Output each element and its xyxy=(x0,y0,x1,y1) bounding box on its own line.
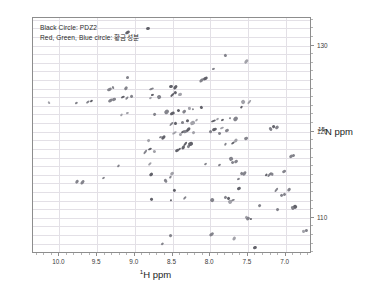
x-tick-minor xyxy=(126,253,127,255)
y-tick-minor xyxy=(311,88,313,89)
legend-line-black-circle: Black Circle: PDZ2 xyxy=(40,23,139,33)
hsqc-spectrum-figure: Black Circle: PDZ2 Red, Green, Blue circ… xyxy=(0,0,366,292)
y-tick-minor xyxy=(311,139,313,140)
spectrum-peak xyxy=(152,112,156,116)
x-tick-major xyxy=(134,253,135,256)
x-tick-minor xyxy=(194,253,195,255)
y-tick-minor xyxy=(311,225,313,226)
x-tick-label: 9.5 xyxy=(92,258,101,265)
spectrum-peak xyxy=(182,108,187,113)
spectrum-peak xyxy=(189,120,195,125)
x-tick-label: 8.0 xyxy=(205,258,214,265)
y-tick-minor xyxy=(311,53,313,54)
gridline-horizontal xyxy=(33,192,310,193)
x-tick-label: 10.0 xyxy=(52,258,64,265)
spectrum-peak xyxy=(112,97,116,101)
y-tick-minor xyxy=(311,79,313,80)
gridline-horizontal xyxy=(33,244,310,245)
spectrum-peak xyxy=(204,162,208,165)
spectrum-peak xyxy=(228,116,231,119)
spectrum-peak xyxy=(233,160,238,165)
spectrum-peak xyxy=(120,114,123,117)
spectrum-peak xyxy=(146,138,150,142)
gridline-horizontal xyxy=(33,183,310,184)
gridline-horizontal xyxy=(33,209,310,210)
y-tick-minor xyxy=(311,165,313,166)
spectrum-peak xyxy=(183,196,187,200)
gridline-vertical xyxy=(173,18,174,252)
spectrum-peak xyxy=(221,119,224,122)
x-tick-label: 8.5 xyxy=(167,258,176,265)
spectrum-peak xyxy=(125,96,129,101)
spectrum-peak xyxy=(223,54,227,58)
y-tick-minor xyxy=(311,148,313,149)
x-tick-major xyxy=(247,253,248,256)
x-tick-label: 9.0 xyxy=(129,258,138,265)
gridline-vertical xyxy=(97,18,98,252)
y-tick-minor xyxy=(311,243,313,244)
y-tick-minor xyxy=(311,62,313,63)
plot-area xyxy=(32,17,311,253)
x-tick-minor xyxy=(292,253,293,255)
gridline-vertical xyxy=(59,18,60,252)
x-tick-minor xyxy=(81,253,82,255)
legend-annotation: Black Circle: PDZ2 Red, Green, Blue circ… xyxy=(40,23,139,42)
y-tick-minor xyxy=(311,191,313,192)
spectrum-peak xyxy=(148,147,153,151)
x-tick-minor xyxy=(89,253,90,255)
gridline-vertical xyxy=(210,18,211,252)
y-tick-minor xyxy=(311,208,313,209)
spectrum-peak xyxy=(274,125,279,130)
gridline-horizontal xyxy=(33,106,310,107)
x-tick-minor xyxy=(307,253,308,255)
x-tick-minor xyxy=(156,253,157,255)
y-tick-minor xyxy=(311,105,313,106)
y-tick-minor xyxy=(311,27,313,28)
x-tick-minor xyxy=(224,253,225,255)
x-tick-major xyxy=(58,253,59,256)
x-tick-label: 7.5 xyxy=(242,258,251,265)
spectrum-peak xyxy=(217,132,221,136)
x-tick-minor xyxy=(232,253,233,255)
x-tick-minor xyxy=(164,253,165,255)
gridline-horizontal xyxy=(33,158,310,159)
y-tick-minor xyxy=(311,234,313,235)
x-tick-minor xyxy=(119,253,120,255)
spectrum-peak xyxy=(236,186,241,191)
spectrum-peak xyxy=(247,100,252,105)
y-axis-title: 15N ppm xyxy=(318,126,353,137)
gridline-horizontal xyxy=(33,149,310,150)
gridline-vertical xyxy=(135,18,136,252)
x-tick-minor xyxy=(111,253,112,255)
gridline-horizontal xyxy=(33,226,310,227)
spectrum-peak xyxy=(232,236,237,241)
spectrum-peak xyxy=(174,121,178,125)
x-tick-minor xyxy=(262,253,263,255)
y-axis-title-main: N ppm xyxy=(325,126,353,137)
x-tick-minor xyxy=(141,253,142,255)
spectrum-peak xyxy=(89,100,93,103)
spectrum-peak xyxy=(223,143,227,147)
y-tick-minor xyxy=(311,113,313,114)
x-tick-minor xyxy=(179,253,180,255)
y-tick-major xyxy=(311,45,314,46)
x-tick-minor xyxy=(43,253,44,255)
spectrum-peak xyxy=(233,116,239,122)
spectrum-peak xyxy=(195,118,199,122)
spectrum-peak xyxy=(123,86,128,91)
x-tick-major xyxy=(172,253,173,256)
gridline-horizontal xyxy=(33,97,310,98)
spectrum-peak xyxy=(305,229,309,233)
y-axis-title-superscript: 15 xyxy=(318,125,325,132)
gridline-horizontal xyxy=(33,80,310,81)
y-tick-minor xyxy=(311,251,313,252)
spectrum-peak xyxy=(176,108,180,112)
x-tick-minor xyxy=(202,253,203,255)
spectrum-peak xyxy=(74,101,78,105)
y-tick-minor xyxy=(311,36,313,37)
gridline-horizontal xyxy=(33,201,310,202)
y-tick-label: 130 xyxy=(317,41,328,48)
x-tick-label: 7.0 xyxy=(280,258,289,265)
x-tick-minor xyxy=(66,253,67,255)
spectrum-peak xyxy=(125,75,129,79)
